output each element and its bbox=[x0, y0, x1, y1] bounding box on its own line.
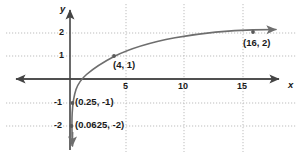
point-0.0625--2 bbox=[70, 124, 74, 128]
graph-figure: y x 2 1 -1 -2 5 10 15 (0.0625, -2) (0.25… bbox=[0, 0, 302, 155]
vertical-gridlines bbox=[126, 4, 243, 152]
point-label-16-2: (16, 2) bbox=[243, 38, 270, 48]
point-label-0.25--1: (0.25, -1) bbox=[75, 97, 114, 107]
point-16-2 bbox=[251, 30, 255, 34]
point-4-1 bbox=[112, 54, 116, 58]
y-tick-label-neg2: -2 bbox=[54, 121, 62, 130]
y-tick-label-neg1: -1 bbox=[54, 98, 62, 107]
x-axis-label: x bbox=[288, 80, 293, 90]
y-tick-label-1: 1 bbox=[59, 51, 64, 60]
point-0.25--1 bbox=[71, 101, 75, 105]
point-label-0.0625--2: (0.0625, -2) bbox=[75, 120, 124, 130]
y-tick-label-2: 2 bbox=[59, 28, 64, 37]
coordinate-plane bbox=[0, 0, 302, 155]
y-axis-label: y bbox=[60, 4, 65, 14]
x-tick-label-15: 15 bbox=[237, 82, 247, 91]
x-tick-label-10: 10 bbox=[178, 82, 188, 91]
x-tick-label-5: 5 bbox=[123, 82, 128, 91]
point-label-4-1: (4, 1) bbox=[113, 60, 135, 70]
